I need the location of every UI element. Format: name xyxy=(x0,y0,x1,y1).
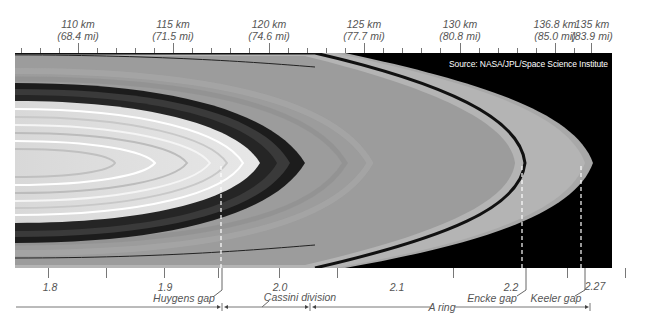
tick xyxy=(567,268,568,278)
mi-value: (74.6 mi) xyxy=(248,30,289,42)
mi-value: (80.8 mi) xyxy=(439,30,480,42)
mi-value: (85.0 mi) xyxy=(533,30,576,42)
tick xyxy=(625,268,626,278)
tick-major xyxy=(78,43,79,53)
tick-major xyxy=(269,43,270,53)
tick-major xyxy=(173,43,174,53)
a-ring-label: A ring xyxy=(428,301,455,313)
mi-value: (68.4 mi) xyxy=(57,30,98,42)
tick-major xyxy=(460,43,461,53)
tick xyxy=(164,268,165,278)
km-value: 135 km xyxy=(571,18,612,30)
km-value: 136.8 km xyxy=(533,18,576,30)
rings-illustration xyxy=(15,53,612,268)
scale-label-1-8: 1.8 xyxy=(43,281,58,293)
mi-value: (71.5 mi) xyxy=(152,30,193,42)
scale-label-125km: 125 km (77.7 mi) xyxy=(343,18,384,42)
mi-value: (83.9 mi) xyxy=(571,30,612,42)
km-value: 120 km xyxy=(248,18,289,30)
tick xyxy=(337,268,338,278)
tick xyxy=(279,268,280,278)
mi-value: (77.7 mi) xyxy=(343,30,384,42)
scale-label-136-8km: 136.8 km (85.0 mi) xyxy=(533,18,576,42)
scale-label-2-1: 2.1 xyxy=(390,281,405,293)
keeler-gap-label: Keeler gap xyxy=(531,292,582,304)
source-credit: Source: NASA/JPL/Space Science Institute xyxy=(449,59,608,69)
scale-label-110km: 110 km (68.4 mi) xyxy=(57,18,98,42)
scale-label-2-27: 2.27 xyxy=(585,280,605,292)
tick xyxy=(48,268,49,278)
km-value: 115 km xyxy=(152,18,193,30)
huygens-gap-label: Huygens gap xyxy=(153,292,215,304)
scale-label-120km: 120 km (74.6 mi) xyxy=(248,18,289,42)
tick xyxy=(453,268,454,278)
encke-gap-label: Encke gap xyxy=(467,292,517,304)
scale-label-130km: 130 km (80.8 mi) xyxy=(439,18,480,42)
km-value: 125 km xyxy=(343,18,384,30)
tick xyxy=(218,268,219,278)
scale-label-115km: 115 km (71.5 mi) xyxy=(152,18,193,42)
tick xyxy=(106,268,107,278)
km-value: 110 km xyxy=(57,18,98,30)
cassini-division-label: Cassini division xyxy=(264,291,336,303)
tick-major xyxy=(364,43,365,53)
saturn-rings-image: Source: NASA/JPL/Space Science Institute xyxy=(15,53,612,268)
km-value: 130 km xyxy=(439,18,480,30)
tick-major xyxy=(591,43,592,53)
tick-major xyxy=(555,43,556,53)
scale-label-135km: 135 km (83.9 mi) xyxy=(571,18,612,42)
